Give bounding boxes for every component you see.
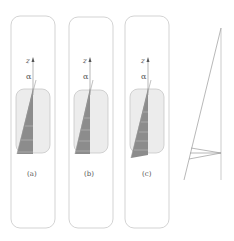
panel-b: z α (b): [69, 17, 113, 228]
ray-line: [191, 148, 221, 153]
panel-label-a: (a): [27, 170, 37, 178]
alpha-label: α: [26, 72, 32, 81]
slanted-boundary-line: [184, 28, 221, 180]
arrowhead-icon: [89, 57, 92, 62]
diagram-canvas: z α (a) z α (b) z α (c): [0, 0, 234, 241]
panel-a: z α (a): [11, 16, 55, 228]
panel-label-c: (c): [142, 170, 152, 178]
panel-c: z α (c): [125, 16, 169, 228]
z-axis-label: z: [140, 57, 145, 65]
z-axis-label: z: [82, 57, 87, 65]
alpha-label: α: [141, 72, 147, 81]
alpha-label: α: [83, 72, 89, 81]
panel-label-b: (b): [84, 170, 94, 178]
ray-line: [189, 153, 221, 159]
arrowhead-icon: [147, 57, 150, 62]
arrowhead-icon: [32, 57, 35, 62]
ray-construction: [184, 28, 221, 180]
z-axis-label: z: [25, 57, 30, 65]
